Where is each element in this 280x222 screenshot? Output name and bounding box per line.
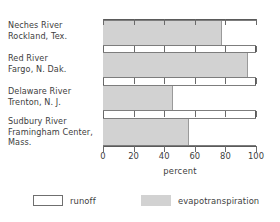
axis-tick bbox=[225, 19, 226, 25]
bar-segment-evapotranspiration bbox=[103, 119, 189, 145]
axis-tick bbox=[195, 111, 196, 117]
axis-tick bbox=[164, 78, 165, 84]
bar-row-delaware-river bbox=[103, 85, 256, 111]
legend-item-evapotranspiration: evapotranspiration bbox=[141, 195, 259, 206]
legend-swatch-runoff bbox=[33, 195, 63, 206]
x-axis-tick-label: 60 bbox=[189, 151, 200, 161]
x-axis-tick-label: 20 bbox=[128, 151, 139, 161]
axis-tick bbox=[134, 19, 135, 25]
category-label-line: Mass. bbox=[8, 137, 100, 148]
axis-line-bottom bbox=[103, 146, 256, 147]
bar-row-red-river bbox=[103, 52, 256, 78]
plot-area bbox=[103, 19, 256, 147]
x-axis-tick-label: 0 bbox=[100, 151, 105, 161]
legend-swatch-evapotranspiration bbox=[141, 195, 171, 206]
bar-segment-evapotranspiration bbox=[103, 53, 248, 77]
category-label-line: Framingham Center, bbox=[8, 127, 100, 138]
axis-tick bbox=[256, 78, 257, 84]
x-axis-tick-label: 80 bbox=[220, 151, 231, 161]
bar-row-neches-river bbox=[103, 20, 256, 46]
axis-tick bbox=[134, 78, 135, 84]
axis-tick bbox=[103, 78, 104, 84]
bar-segment-evapotranspiration bbox=[103, 21, 222, 45]
category-label-line: Red River bbox=[8, 53, 100, 64]
category-label-line: Sudbury River bbox=[8, 116, 100, 127]
axis-tick bbox=[256, 111, 257, 117]
category-label-line: Trenton, N. J. bbox=[8, 97, 100, 108]
axis-tick bbox=[195, 19, 196, 25]
x-axis-tick-label: 40 bbox=[159, 151, 170, 161]
legend-label-evapotranspiration: evapotranspiration bbox=[178, 196, 259, 206]
legend-label-runoff: runoff bbox=[70, 196, 96, 206]
axis-tick bbox=[195, 78, 196, 84]
axis-tick bbox=[134, 111, 135, 117]
axis-tick bbox=[164, 19, 165, 25]
axis-tick bbox=[225, 78, 226, 84]
category-label-neches-river: Neches River Rockland, Tex. bbox=[8, 20, 100, 41]
category-label-line: Rockland, Tex. bbox=[8, 31, 100, 42]
axis-tick bbox=[164, 111, 165, 117]
axis-tick bbox=[225, 46, 226, 52]
category-label-red-river: Red River Fargo, N. Dak. bbox=[8, 53, 100, 74]
category-label-line: Fargo, N. Dak. bbox=[8, 64, 100, 75]
x-axis-tick-label: 100 bbox=[248, 151, 264, 161]
bar-row-sudbury-river bbox=[103, 118, 256, 146]
category-label-sudbury-river: Sudbury River Framingham Center, Mass. bbox=[8, 116, 100, 148]
category-label-delaware-river: Delaware River Trenton, N. J. bbox=[8, 86, 100, 107]
axis-tick bbox=[195, 46, 196, 52]
category-axis-labels: Neches River Rockland, Tex. Red River Fa… bbox=[8, 18, 100, 150]
axis-tick bbox=[103, 19, 104, 25]
axis-tick bbox=[134, 46, 135, 52]
legend-item-runoff: runoff bbox=[33, 195, 96, 206]
axis-tick bbox=[103, 111, 104, 117]
category-label-line: Delaware River bbox=[8, 86, 100, 97]
axis-tick bbox=[164, 46, 165, 52]
bar-segment-evapotranspiration bbox=[103, 86, 173, 110]
axis-tick bbox=[256, 46, 257, 52]
category-label-line: Neches River bbox=[8, 20, 100, 31]
x-axis-title: percent bbox=[163, 166, 196, 176]
axis-tick bbox=[256, 19, 257, 25]
axis-tick bbox=[103, 46, 104, 52]
axis-tick bbox=[225, 111, 226, 117]
chart-figure: Neches River Rockland, Tex. Red River Fa… bbox=[0, 0, 280, 222]
